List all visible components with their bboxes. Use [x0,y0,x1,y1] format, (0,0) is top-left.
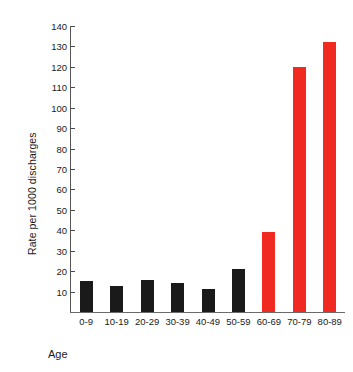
bar-60-69 [262,232,275,312]
y-axis-tick-label: 30 [41,246,67,255]
y-axis-tick-label: 130 [41,42,67,51]
y-axis-title: Rate per 1000 discharges [26,55,40,255]
x-axis-tick-label: 30-39 [162,316,192,327]
x-axis-title: Age [48,348,68,360]
x-axis-tick-labels: 0-910-1920-2930-3940-4950-5960-6970-7980… [71,316,345,330]
x-axis-tick-label: 10-19 [101,316,131,327]
bar-40-49 [202,289,215,312]
bar-30-39 [171,283,184,312]
y-axis-tick-label: 120 [41,62,67,71]
y-axis-tick-label: 110 [41,83,67,92]
x-axis-tick-label: 60-69 [254,316,284,327]
x-axis-tick-label: 50-59 [223,316,253,327]
y-axis-tick-label: 80 [41,144,67,153]
x-axis-tick-label: 0-9 [71,316,101,327]
bar-80-89 [323,42,336,312]
y-axis-tick-label: 20 [41,267,67,276]
y-axis-tick-label: 10 [41,287,67,296]
plot-area [71,26,345,312]
x-axis-tick-label: 70-79 [284,316,314,327]
bar-0-9 [80,281,93,312]
y-axis-tick-label: 50 [41,205,67,214]
bar-70-79 [293,67,306,312]
y-axis-tick-label: 60 [41,185,67,194]
y-axis-tick-label: 70 [41,165,67,174]
y-axis-tick-label: 40 [41,226,67,235]
x-axis-tick-label: 80-89 [315,316,345,327]
bar-10-19 [110,286,123,312]
x-axis-line [70,312,345,313]
x-axis-tick-label: 40-49 [193,316,223,327]
y-axis-tick-label: 90 [41,124,67,133]
bar-chart: Rate per 1000 discharges 102030405060708… [0,0,353,372]
y-axis-tick-label: 100 [41,103,67,112]
bar-20-29 [141,280,154,312]
y-axis-tick-labels: 102030405060708090100110120130140 [40,0,67,372]
x-axis-tick-label: 20-29 [132,316,162,327]
y-axis-tick-label: 140 [41,22,67,31]
bar-50-59 [232,269,245,312]
